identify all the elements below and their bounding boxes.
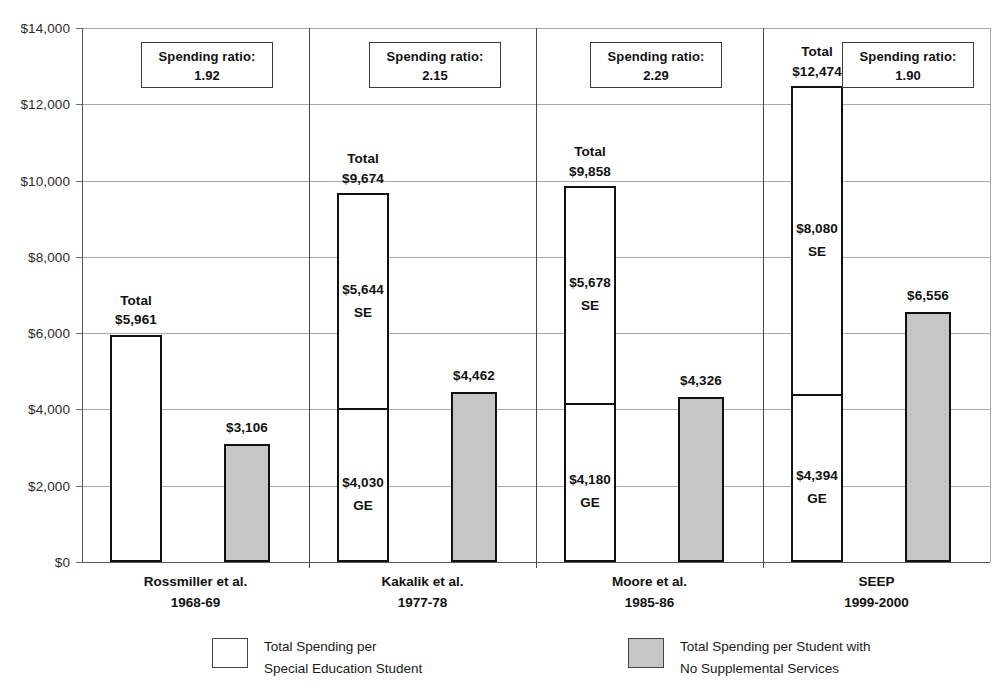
ratio-caption: Spending ratio:	[142, 48, 272, 67]
category-year: 1968-69	[144, 593, 248, 614]
legend-label-line1: Total Spending per Student with	[680, 636, 871, 658]
y-axis-tick-label: $0	[55, 555, 70, 570]
bar-no-supplemental-2[interactable]	[451, 392, 497, 562]
bar-ge-label-2: $4,030GE	[342, 472, 383, 518]
ratio-value: 2.15	[370, 67, 500, 86]
se-value: $5,644	[342, 279, 383, 302]
bar-se-label-2: $5,644SE	[342, 279, 383, 325]
x-axis-category-label-4: SEEP1999-2000	[844, 572, 909, 614]
ratio-caption: Spending ratio:	[591, 48, 721, 67]
group-separator-1	[309, 28, 310, 568]
category-year: 1977-78	[382, 593, 464, 614]
spending-ratio-box-3: Spending ratio:2.29	[590, 42, 722, 88]
total-caption: Total	[115, 291, 157, 311]
bar-total-spending-1[interactable]	[110, 335, 162, 562]
bar-no-supplemental-3[interactable]	[678, 397, 724, 562]
spending-ratio-box-4: Spending ratio:1.90	[842, 42, 974, 88]
ge-value: $4,180	[569, 469, 610, 492]
y-axis-tick-label: $6,000	[28, 326, 70, 341]
legend-item-1[interactable]: Total Spending perSpecial Education Stud…	[212, 638, 572, 682]
x-axis-category-label-1: Rossmiller et al.1968-69	[144, 572, 248, 614]
category-year: 1999-2000	[844, 593, 909, 614]
legend-label-2: Total Spending per Student withNo Supple…	[680, 636, 871, 679]
y-axis-tick-label: $2,000	[28, 478, 70, 493]
spending-ratio-box-1: Spending ratio:1.92	[141, 42, 273, 88]
legend-label-line1: Total Spending per	[264, 636, 422, 658]
bar-ge-label-4: $4,394GE	[796, 465, 837, 511]
bar-segment-divider-2	[337, 408, 389, 410]
ratio-caption: Spending ratio:	[843, 48, 973, 67]
category-name: Moore et al.	[612, 572, 687, 593]
category-name: Kakalik et al.	[382, 572, 464, 593]
plot-right-border	[990, 28, 991, 562]
total-caption: Total	[569, 142, 611, 162]
group-separator-3	[763, 28, 764, 568]
ge-value: $4,030	[342, 472, 383, 495]
total-value: $12,474	[792, 62, 842, 82]
category-name: Rossmiller et al.	[144, 572, 248, 593]
group-separator-2	[536, 28, 537, 568]
legend-label-line2: Special Education Student	[264, 658, 422, 680]
se-value: $8,080	[796, 218, 837, 241]
ge-tag: GE	[342, 495, 383, 518]
ge-tag: GE	[569, 492, 610, 515]
ratio-caption: Spending ratio:	[370, 48, 500, 67]
bar-total-label-3: Total$9,858	[569, 142, 611, 181]
bar-total-label-4: Total$12,474	[792, 42, 842, 81]
se-tag: SE	[342, 302, 383, 325]
bar-no-supplemental-4[interactable]	[905, 312, 951, 562]
category-name: SEEP	[844, 572, 909, 593]
bar-ge-label-3: $4,180GE	[569, 469, 610, 515]
ratio-value: 2.29	[591, 67, 721, 86]
chart-canvas: $0$2,000$4,000$6,000$8,000$10,000$12,000…	[0, 0, 1006, 695]
bar-comparison-label-4: $6,556	[907, 288, 949, 303]
total-value: $9,858	[569, 162, 611, 182]
bar-segment-divider-4	[791, 394, 843, 396]
total-value: $5,961	[115, 310, 157, 330]
y-axis-tick-label: $4,000	[28, 402, 70, 417]
bar-total-label-1: Total$5,961	[115, 291, 157, 330]
bar-comparison-label-1: $3,106	[226, 420, 268, 435]
bar-se-label-4: $8,080SE	[796, 218, 837, 264]
total-value: $9,674	[342, 169, 384, 189]
se-tag: SE	[796, 241, 837, 264]
category-year: 1985-86	[612, 593, 687, 614]
y-axis-tick-label: $12,000	[21, 97, 71, 112]
y-axis-tick-label: $14,000	[21, 21, 71, 36]
bar-comparison-label-2: $4,462	[453, 368, 495, 383]
legend-item-2[interactable]: Total Spending per Student withNo Supple…	[628, 638, 988, 682]
legend-label-1: Total Spending perSpecial Education Stud…	[264, 636, 422, 679]
ratio-value: 1.92	[142, 67, 272, 86]
legend-swatch-white	[212, 638, 248, 668]
x-axis-category-label-3: Moore et al.1985-86	[612, 572, 687, 614]
y-axis-line	[82, 28, 83, 562]
bar-segment-divider-3	[564, 403, 616, 405]
y-axis-tick-label: $8,000	[28, 249, 70, 264]
y-axis-tick-label: $10,000	[21, 173, 71, 188]
bar-total-label-2: Total$9,674	[342, 149, 384, 188]
se-value: $5,678	[569, 272, 610, 295]
ratio-value: 1.90	[843, 67, 973, 86]
ge-tag: GE	[796, 488, 837, 511]
x-axis-category-label-2: Kakalik et al.1977-78	[382, 572, 464, 614]
ge-value: $4,394	[796, 465, 837, 488]
total-caption: Total	[792, 42, 842, 62]
bar-comparison-label-3: $4,326	[680, 373, 722, 388]
se-tag: SE	[569, 295, 610, 318]
bar-se-label-3: $5,678SE	[569, 272, 610, 318]
bar-no-supplemental-1[interactable]	[224, 444, 270, 562]
total-caption: Total	[342, 149, 384, 169]
legend-swatch-gray	[628, 638, 664, 668]
legend-label-line2: No Supplemental Services	[680, 658, 871, 680]
spending-ratio-box-2: Spending ratio:2.15	[369, 42, 501, 88]
